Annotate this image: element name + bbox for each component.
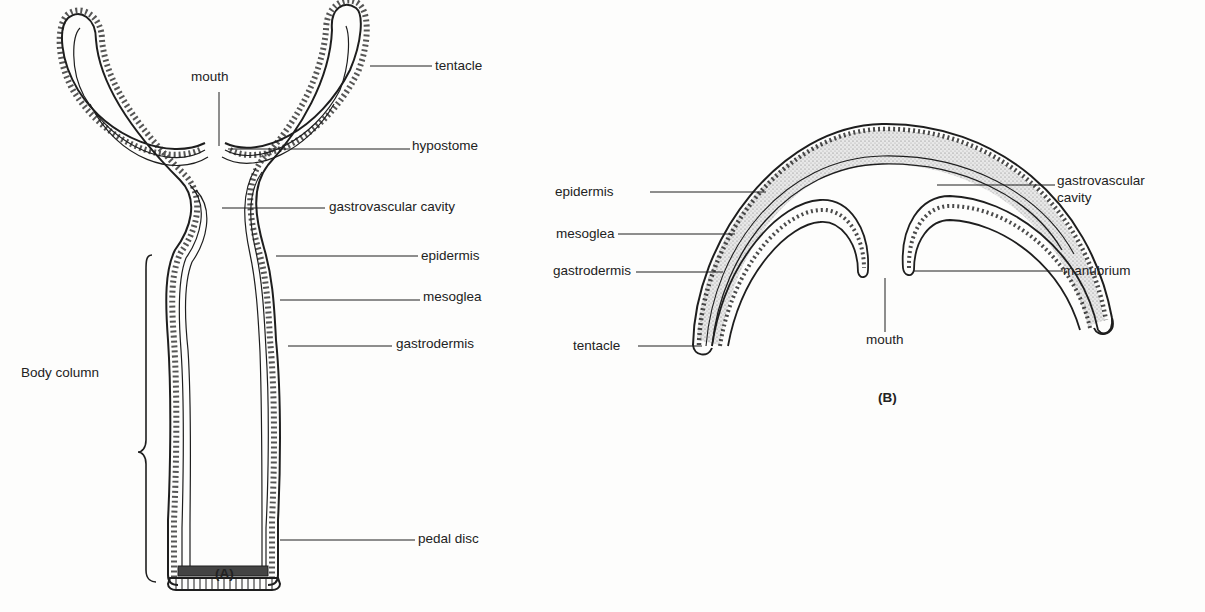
polyp-outer-right — [225, 5, 361, 585]
label-b-mesoglea: mesoglea — [556, 226, 615, 242]
label-a-gastrodermis: gastrodermis — [396, 336, 474, 352]
label-a-body-column: Body column — [21, 365, 99, 381]
figure-a-polyp — [60, 0, 432, 590]
label-b-tentacle: tentacle — [573, 338, 620, 354]
label-a-gastrovascular-cavity: gastrovascular cavity — [329, 199, 455, 215]
polyp-outer-left — [62, 14, 205, 585]
figure-b-medusa — [618, 124, 1113, 355]
label-a-tentacle: tentacle — [435, 58, 482, 74]
label-b-gastrodermis: gastrodermis — [553, 263, 631, 279]
label-a-epidermis: epidermis — [421, 248, 480, 264]
label-a-hypostome: hypostome — [412, 138, 478, 154]
label-b-manubrium: manubrium — [1063, 263, 1131, 279]
caption-a: (A) — [215, 566, 234, 581]
label-b-gastrovascular-line1: gastrovascular — [1057, 173, 1145, 189]
diagram-canvas — [0, 0, 1205, 612]
label-a-pedal-disc: pedal disc — [418, 531, 479, 547]
label-b-epidermis: epidermis — [555, 184, 614, 200]
body-column-brace — [138, 255, 156, 582]
label-a-mesoglea: mesoglea — [423, 289, 482, 305]
label-b-mouth: mouth — [866, 332, 904, 348]
label-b-gastrovascular-line2: cavity — [1057, 190, 1092, 206]
caption-b: (B) — [878, 390, 897, 405]
label-a-mouth: mouth — [191, 69, 229, 85]
